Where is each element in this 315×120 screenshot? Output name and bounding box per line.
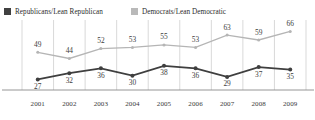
party-identification-line-chart: Republicans/Lean Republican Democrats/Le… xyxy=(0,0,315,120)
plot-area: 494452535553635966 273236303836293735 xyxy=(0,18,315,98)
data-point-label: 63 xyxy=(223,23,231,32)
x-tick-label: 2001 xyxy=(21,99,55,109)
data-point-marker xyxy=(162,64,166,68)
data-point-marker xyxy=(67,71,71,75)
legend-item-democrat: Democrats/Lean Democratic xyxy=(131,2,226,14)
x-tick-label: 2005 xyxy=(147,99,181,109)
data-point-marker xyxy=(99,66,103,70)
data-point-marker xyxy=(288,68,292,72)
data-point-marker xyxy=(163,43,166,46)
data-point-marker xyxy=(36,77,40,81)
data-point-label: 52 xyxy=(97,36,105,45)
series-value-labels-democrat: 494452535553635966 xyxy=(34,19,294,55)
data-point-label: 59 xyxy=(255,28,263,37)
data-point-marker xyxy=(257,65,261,69)
data-point-marker xyxy=(257,39,260,42)
gridlines xyxy=(22,20,306,90)
x-tick-label: 2006 xyxy=(179,99,213,109)
x-tick-label: 2004 xyxy=(115,99,149,109)
data-point-label: 30 xyxy=(129,78,137,87)
x-tick-label: 2003 xyxy=(84,99,118,109)
data-point-label: 55 xyxy=(160,32,168,41)
data-point-label: 49 xyxy=(34,40,42,49)
legend-swatch-democrat xyxy=(131,8,138,15)
legend-label-democrat: Democrats/Lean Democratic xyxy=(142,8,226,16)
data-point-marker xyxy=(225,75,229,79)
legend-label-republican: Republicans/Lean Republican xyxy=(15,8,103,16)
data-point-marker xyxy=(226,34,229,37)
data-point-marker xyxy=(131,46,134,49)
data-point-label: 53 xyxy=(192,35,200,44)
x-tick-label: 2002 xyxy=(52,99,86,109)
legend-item-republican: Republicans/Lean Republican xyxy=(4,2,103,14)
data-point-label: 27 xyxy=(34,82,42,91)
x-tick-label: 2008 xyxy=(242,99,276,109)
x-tick-label: 2009 xyxy=(273,99,307,109)
data-point-label: 35 xyxy=(287,72,295,81)
data-point-marker xyxy=(68,57,71,60)
data-point-label: 38 xyxy=(160,68,168,77)
data-point-marker xyxy=(289,30,292,33)
chart-legend: Republicans/Lean Republican Democrats/Le… xyxy=(0,0,315,16)
data-point-marker xyxy=(130,74,134,78)
data-point-label: 36 xyxy=(192,71,200,80)
data-point-label: 44 xyxy=(66,46,74,55)
data-point-label: 66 xyxy=(287,19,295,28)
data-point-marker xyxy=(194,46,197,49)
data-point-marker xyxy=(36,51,39,54)
data-point-label: 32 xyxy=(66,76,74,85)
legend-swatch-republican xyxy=(4,8,11,15)
data-point-label: 37 xyxy=(255,70,263,79)
data-point-label: 53 xyxy=(129,35,137,44)
series-value-labels-republican: 273236303836293735 xyxy=(34,68,294,91)
x-axis-tick-labels: 200120022003200420052006200720082009 xyxy=(0,99,315,113)
plot-svg: 494452535553635966 273236303836293735 xyxy=(0,18,315,98)
x-tick-label: 2007 xyxy=(210,99,244,109)
data-point-label: 36 xyxy=(97,71,105,80)
data-point-marker xyxy=(99,47,102,50)
data-point-marker xyxy=(194,66,198,70)
data-point-label: 29 xyxy=(223,79,231,88)
